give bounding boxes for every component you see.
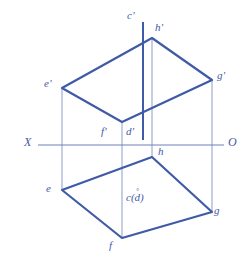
vertex-label-f-prime: f' (101, 126, 107, 137)
vertex-label-c-d: c(d) (126, 192, 144, 203)
drawing-canvas: X O e' h' g' f' d' c' e h g f c(d) ° (0, 0, 250, 270)
vertex-label-e: e (46, 183, 51, 194)
vertex-label-c-prime: c' (127, 10, 135, 21)
vertex-label-f: f (109, 240, 112, 251)
vertex-label-g-prime: g' (217, 70, 225, 81)
vertex-label-h-prime: h' (155, 22, 163, 33)
vertex-label-g: g (214, 205, 220, 216)
vertex-label-d-prime: d' (126, 126, 134, 137)
vertex-label-e-prime: e' (44, 78, 52, 89)
point-marker-icon: ° (136, 188, 139, 195)
axis-label-x: X (24, 136, 31, 148)
axis-label-o: O (228, 136, 237, 148)
front-view-parallelogram (62, 38, 212, 122)
projection-drawing (0, 0, 250, 270)
vertex-label-h: h (158, 146, 164, 157)
